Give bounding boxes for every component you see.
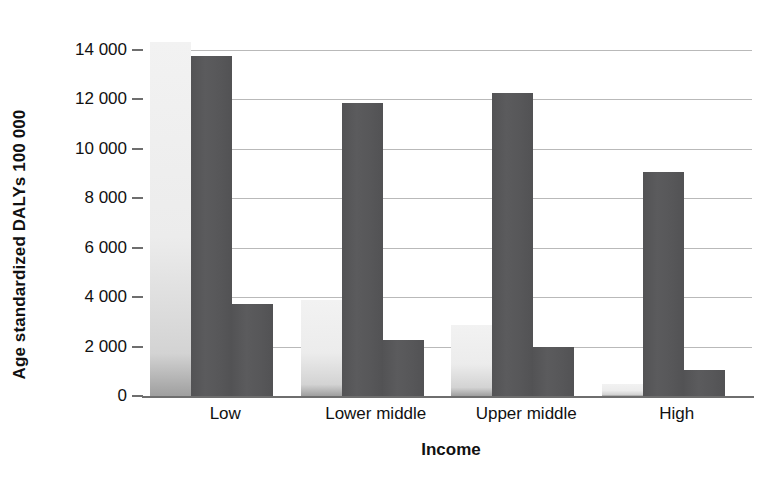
bar (492, 93, 533, 396)
y-tick-mark (132, 247, 143, 249)
x-tick-label: High (602, 404, 753, 434)
bar (533, 347, 574, 396)
y-tick-mark (132, 346, 143, 348)
bar-chart: Age standardized DALYs 100 000 02 0004 0… (0, 0, 757, 489)
y-tick-label: 14 000 (75, 40, 127, 60)
bar (342, 103, 383, 396)
y-tick-mark (132, 49, 143, 51)
bar-group (301, 30, 452, 396)
y-tick-label: 6 000 (84, 238, 127, 258)
bar (602, 384, 643, 396)
y-tick-label: 0 (118, 386, 127, 406)
bar-group (602, 30, 753, 396)
bar-group (150, 30, 301, 396)
y-tick-label: 10 000 (75, 139, 127, 159)
x-tick-label: Low (150, 404, 301, 434)
x-tick-label: Upper middle (451, 404, 602, 434)
y-axis-title: Age standardized DALYs 100 000 (0, 0, 40, 489)
x-axis-line (142, 396, 754, 398)
x-axis-title: Income (150, 440, 752, 460)
y-tick-mark (132, 148, 143, 150)
bar (150, 42, 191, 396)
y-tick-mark (132, 197, 143, 199)
y-tick-label: 2 000 (84, 337, 127, 357)
y-tick-label: 8 000 (84, 188, 127, 208)
x-axis-tick-labels: LowLower middleUpper middleHigh (150, 404, 752, 434)
bar (383, 340, 424, 396)
plot-area (150, 30, 752, 396)
y-tick-label: 4 000 (84, 287, 127, 307)
bar (684, 370, 725, 396)
bar (451, 325, 492, 396)
bar (643, 172, 684, 396)
y-tick-mark (132, 296, 143, 298)
y-tick-label: 12 000 (75, 89, 127, 109)
bar (191, 56, 232, 396)
bar-group (451, 30, 602, 396)
x-tick-label: Lower middle (301, 404, 452, 434)
bar (301, 300, 342, 396)
y-tick-mark (132, 98, 143, 100)
bar (232, 304, 273, 396)
bar-groups (150, 30, 752, 396)
y-axis-tick-labels: 02 0004 0006 0008 00010 00012 00014 000 (45, 0, 143, 489)
